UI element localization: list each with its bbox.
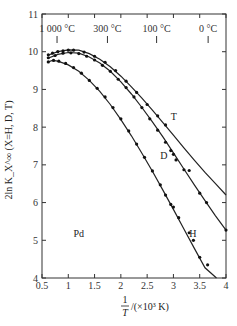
data-point-H: [198, 256, 201, 259]
chart: 0.511.522.533.54 4567891011 1 000 °C300 …: [0, 0, 237, 326]
x-axis-label-unit: /(×10³ K): [131, 301, 169, 313]
data-point-D: [69, 51, 72, 54]
annotation-Pd: Pd: [74, 228, 85, 239]
temperature-marks: 1 000 °C300 °C100 °C0 °C: [39, 23, 217, 43]
series-D: [47, 51, 228, 231]
data-point-H: [119, 117, 122, 120]
data-point-D: [125, 86, 128, 89]
data-point-T: [67, 49, 70, 52]
x-tick-label: 1: [66, 280, 71, 291]
temperature-mark-label: 300 °C: [93, 23, 121, 34]
data-point-D: [54, 54, 57, 57]
series-group: [47, 49, 228, 278]
y-tick-label: 11: [28, 9, 38, 20]
data-point-H: [127, 129, 130, 132]
data-point-H: [96, 87, 99, 90]
data-point-T: [93, 55, 96, 58]
series-T: [47, 49, 226, 195]
data-point-D: [61, 52, 64, 55]
data-point-D: [182, 168, 185, 171]
x-tick-label: 2: [118, 280, 123, 291]
data-point-T: [51, 52, 54, 55]
y-ticks: 4567891011: [28, 9, 226, 284]
y-tick-label: 10: [28, 46, 38, 57]
data-point-D: [85, 55, 88, 58]
data-point-H: [192, 239, 195, 242]
data-point-D: [224, 229, 227, 232]
data-point-H: [206, 263, 209, 266]
curve-H: [47, 60, 216, 278]
data-point-D: [156, 129, 159, 132]
data-point-D: [169, 149, 172, 152]
data-point-T: [114, 69, 117, 72]
data-point-D: [205, 201, 208, 204]
data-point-D: [132, 95, 135, 98]
data-point-H: [88, 79, 91, 82]
data-point-H: [52, 59, 55, 62]
data-point-H: [169, 203, 172, 206]
data-point-H: [103, 95, 106, 98]
curve-D: [47, 53, 226, 231]
data-point-D: [174, 158, 177, 161]
data-point-T: [72, 49, 75, 52]
data-point-D: [198, 192, 201, 195]
y-tick-label: 4: [33, 273, 38, 284]
data-point-H: [143, 156, 146, 159]
data-point-T: [56, 50, 59, 53]
y-tick-label: 9: [33, 84, 38, 95]
data-point-H: [64, 62, 67, 65]
data-point-T: [82, 50, 85, 53]
series-H: [47, 59, 217, 278]
data-point-H: [57, 60, 60, 63]
curve-T: [47, 50, 226, 195]
annotations: PdTDH: [74, 111, 197, 239]
data-point-T: [103, 61, 106, 64]
y-tick-label: 5: [33, 235, 38, 246]
annotation-H: H: [189, 228, 196, 239]
data-point-H: [172, 205, 175, 208]
x-tick-label: 3.5: [193, 280, 206, 291]
data-point-T: [47, 53, 50, 56]
data-point-T: [164, 123, 167, 126]
data-point-H: [80, 72, 83, 75]
data-point-D: [109, 70, 112, 73]
data-point-H: [177, 216, 180, 219]
x-tick-label: 2.5: [141, 280, 154, 291]
data-point-D: [140, 106, 143, 109]
annotation-T: T: [171, 111, 177, 122]
data-point-D: [101, 64, 104, 67]
data-point-D: [93, 58, 96, 61]
data-point-H: [164, 193, 167, 196]
data-point-D: [47, 56, 50, 59]
y-tick-label: 6: [33, 197, 38, 208]
data-point-H: [72, 66, 75, 69]
data-point-T: [125, 80, 128, 83]
temperature-mark-label: 0 °C: [199, 23, 217, 34]
x-tick-label: 1.5: [88, 280, 101, 291]
data-point-D: [77, 52, 80, 55]
data-point-T: [146, 103, 149, 106]
y-tick-label: 8: [33, 122, 38, 133]
data-point-D: [188, 169, 191, 172]
data-point-D: [164, 141, 167, 144]
annotation-D: D: [160, 150, 167, 161]
data-point-T: [135, 91, 138, 94]
data-point-H: [151, 169, 154, 172]
data-point-D: [172, 153, 175, 156]
x-axis-label-numerator: 1: [123, 294, 128, 305]
data-point-T: [156, 114, 159, 117]
data-point-H: [159, 183, 162, 186]
x-tick-label: 3: [171, 280, 176, 291]
x-tick-label: 4: [224, 280, 229, 291]
y-axis-label: 2ln K_X^∞ (X=H, D, T): [3, 101, 15, 200]
data-point-H: [135, 143, 138, 146]
x-ticks: 0.511.522.533.54: [36, 14, 229, 291]
temperature-mark-label: 1 000 °C: [39, 23, 75, 34]
data-point-D: [148, 117, 151, 120]
data-point-H: [47, 60, 50, 63]
x-axis-label-denominator: T: [122, 307, 129, 318]
temperature-mark-label: 100 °C: [143, 23, 171, 34]
data-point-H: [111, 106, 114, 109]
data-point-D: [117, 78, 120, 81]
y-tick-label: 7: [33, 159, 38, 170]
